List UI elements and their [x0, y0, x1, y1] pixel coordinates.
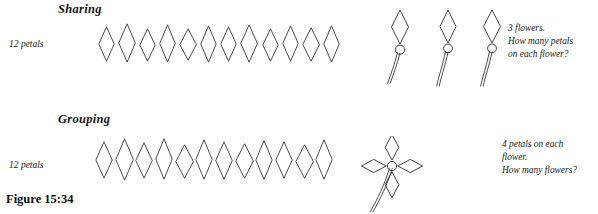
stem-icon [370, 168, 390, 212]
petal-icon [215, 141, 233, 180]
section-title-sharing: Sharing [58, 2, 102, 17]
stem-icon [483, 51, 492, 86]
petal-icon [361, 159, 386, 172]
flower-sharing-3 [472, 6, 506, 90]
petal-row-label-sharing: 12 petals [9, 39, 44, 49]
note-sharing: 3 flowers. How many petals on each flowe… [508, 22, 573, 62]
section-title-grouping: Grouping [58, 112, 110, 127]
petal-icon [159, 24, 176, 63]
figure-canvas: Sharing 12 petals 3 flowers. How many pe… [0, 0, 598, 214]
petal-icon [385, 136, 399, 160]
petal-icon [302, 27, 320, 62]
petal-icon [323, 25, 340, 63]
petal-icon [282, 25, 299, 62]
petal-icon [315, 139, 333, 180]
flower-sharing-1 [378, 6, 412, 90]
note-line: How many flowers? [502, 164, 577, 177]
petal-icon [115, 138, 134, 181]
petal-icon [392, 10, 409, 44]
petal-icon [275, 141, 293, 179]
petal-icon [398, 159, 423, 172]
petal-icon [200, 25, 217, 63]
petal-row-label-grouping: 12 petals [9, 160, 44, 170]
petal-icon [440, 10, 456, 43]
petal-icon [95, 141, 113, 179]
stem-icon [439, 51, 448, 86]
note-grouping: 4 petals on each flower. How many flower… [502, 138, 577, 178]
petal-icon [175, 144, 194, 179]
note-line: How many petals [508, 35, 573, 48]
flower-grouping-1 [344, 136, 440, 214]
petal-icon [235, 143, 254, 179]
figure-caption: Figure 15:34 [6, 192, 73, 207]
petal-icon [255, 140, 273, 180]
petal-row-grouping [95, 140, 335, 181]
petal-icon [98, 26, 115, 62]
petal-icon [484, 10, 501, 43]
petal-icon [262, 28, 279, 62]
petal-icon [135, 142, 153, 179]
note-line: on each flower? [508, 48, 573, 61]
note-line: flower. [502, 151, 577, 164]
stem-icon [390, 53, 400, 84]
note-line: 4 petals on each [502, 138, 577, 151]
flower-sharing-2 [428, 6, 462, 90]
petal-row-sharing [98, 25, 343, 63]
petal-icon [220, 26, 237, 62]
petal-icon [295, 144, 314, 179]
petal-icon [118, 23, 136, 63]
petal-icon [155, 138, 173, 180]
petal-icon [179, 28, 197, 61]
stem-icon [373, 168, 393, 212]
petal-icon [139, 28, 156, 62]
note-line: 3 flowers. [508, 22, 573, 35]
petal-icon [195, 139, 213, 180]
petal-icon [240, 24, 258, 63]
